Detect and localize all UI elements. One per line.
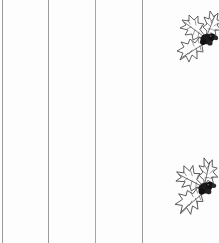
holly-bottom-icon bbox=[156, 141, 219, 234]
holly-sprig-bottom bbox=[156, 141, 219, 234]
holly-top-icon bbox=[166, 2, 219, 90]
holly-bottom-berries bbox=[197, 181, 217, 196]
holly-top-berries bbox=[200, 34, 218, 46]
stationery-page: Holly Stationery Sheet bbox=[0, 0, 219, 243]
holly-sprig-top bbox=[166, 2, 219, 90]
vertical-rule-line-3 bbox=[95, 0, 96, 243]
vertical-rule-line-4 bbox=[142, 0, 143, 243]
vertical-rule-line-2 bbox=[48, 0, 49, 243]
page-title: Holly Stationery Sheet bbox=[0, 0, 1, 1]
vertical-rule-line-1 bbox=[2, 0, 3, 243]
